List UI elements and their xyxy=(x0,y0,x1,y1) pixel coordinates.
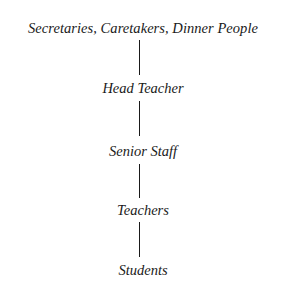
node-students: Students xyxy=(0,261,286,279)
connector-line-4 xyxy=(139,222,140,257)
node-senior-staff: Senior Staff xyxy=(0,142,286,160)
connector-line-3 xyxy=(139,164,140,198)
node-head-teacher: Head Teacher xyxy=(0,79,286,97)
connector-line-2 xyxy=(139,101,140,136)
node-secretaries-caretakers-dinner-people: Secretaries, Caretakers, Dinner People xyxy=(0,19,286,37)
node-teachers: Teachers xyxy=(0,201,286,219)
connector-line-1 xyxy=(139,40,140,75)
